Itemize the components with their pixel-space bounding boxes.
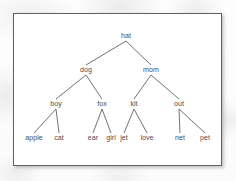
tree-edge <box>134 75 151 99</box>
tree-edge <box>102 109 111 133</box>
tree-node-dog: dog <box>80 66 92 74</box>
tree-label-layer: hatdogmomboyfoxkitoutapplecateargirljetl… <box>25 32 210 142</box>
tree-edge <box>134 109 147 133</box>
tree-edge <box>34 109 56 133</box>
tree-node-cat: cat <box>54 134 63 142</box>
tree-node-jet: jet <box>119 134 128 142</box>
binary-tree-diagram: hatdogmomboyfoxkitoutapplecateargirljetl… <box>14 14 223 167</box>
tree-edge <box>179 109 180 133</box>
tree-edge-layer <box>34 41 205 133</box>
tree-node-kit: kit <box>130 100 137 108</box>
tree-node-net: net <box>175 134 185 142</box>
tree-node-mom: mom <box>143 66 159 74</box>
tree-node-girl: girl <box>106 134 116 142</box>
tree-edge <box>151 75 179 99</box>
tree-node-pet: pet <box>200 134 210 142</box>
tree-node-boy: boy <box>50 100 62 108</box>
tree-node-apple: apple <box>25 134 42 142</box>
tree-node-fox: fox <box>97 100 107 108</box>
tree-edge <box>86 41 126 65</box>
tree-node-hat: hat <box>121 32 131 40</box>
tree-edge <box>56 109 59 133</box>
tree-node-out: out <box>174 100 184 108</box>
tree-node-love: love <box>140 134 153 142</box>
tree-edge <box>86 75 102 99</box>
tree-edge <box>93 109 102 133</box>
tree-diagram-frame: hatdogmomboyfoxkitoutapplecateargirljetl… <box>13 13 222 166</box>
tree-edge <box>126 41 151 65</box>
tree-node-ear: ear <box>88 134 99 142</box>
page-canvas: hatdogmomboyfoxkitoutapplecateargirljetl… <box>0 0 236 181</box>
tree-edge <box>179 109 205 133</box>
tree-edge <box>56 75 86 99</box>
tree-edge <box>124 109 134 133</box>
